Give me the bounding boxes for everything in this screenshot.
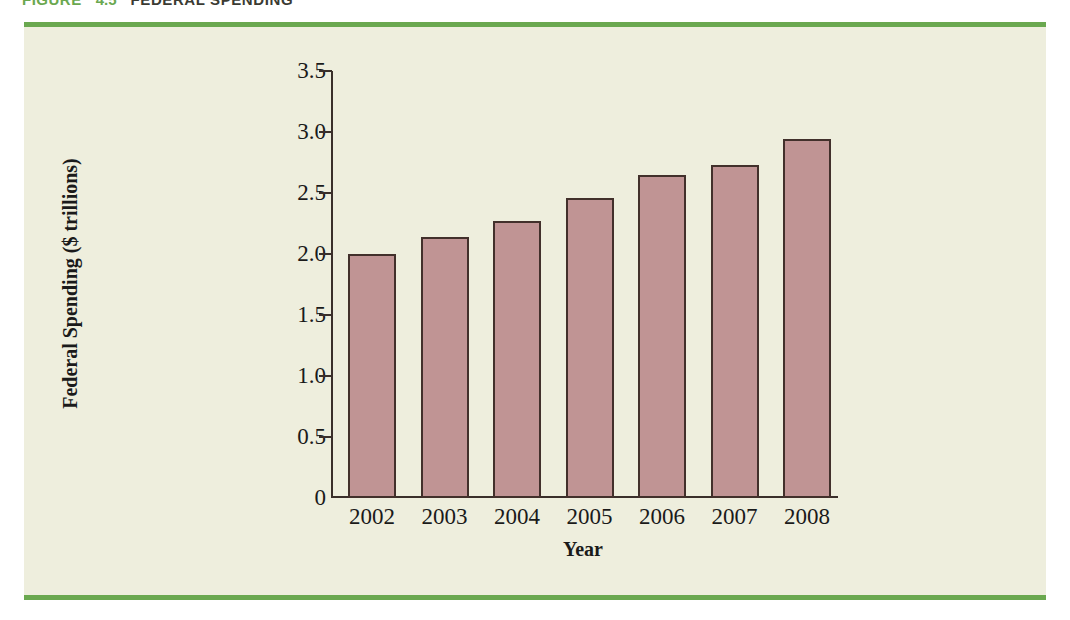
x-axis-tick-label: 2007 xyxy=(699,504,771,530)
plot-bars xyxy=(328,71,838,498)
x-axis-tick-labels: 2002200320042005200620072008 xyxy=(328,504,838,538)
y-axis-title: Federal Spending ($ trillions) xyxy=(59,134,82,434)
bar xyxy=(348,254,396,498)
bar xyxy=(638,175,686,498)
bar xyxy=(421,237,469,498)
figure-label: FIGURE xyxy=(22,0,82,8)
bar xyxy=(711,165,759,498)
x-axis-tick-label: 2003 xyxy=(409,504,481,530)
bar-chart: Federal Spending ($ trillions) 00.51.01.… xyxy=(24,22,1046,600)
x-axis-tick-label: 2005 xyxy=(554,504,626,530)
x-axis-tick-label: 2002 xyxy=(336,504,408,530)
x-axis-tick-label: 2008 xyxy=(771,504,843,530)
x-axis-title: Year xyxy=(328,538,838,561)
figure-header: FIGURE 4.5 FEDERAL SPENDING xyxy=(22,0,293,9)
bar xyxy=(566,198,614,498)
bar xyxy=(783,139,831,498)
figure-number: 4.5 xyxy=(96,0,117,8)
x-axis-tick-label: 2006 xyxy=(626,504,698,530)
figure-title: FEDERAL SPENDING xyxy=(131,0,294,8)
x-axis-tick-label: 2004 xyxy=(481,504,553,530)
bar xyxy=(493,221,541,498)
figure-panel: Federal Spending ($ trillions) 00.51.01.… xyxy=(24,22,1046,600)
